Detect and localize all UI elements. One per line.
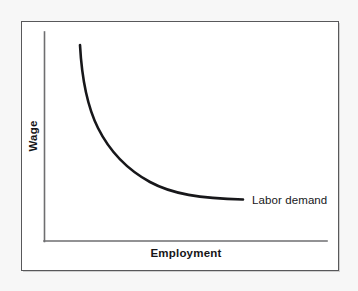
figure-root: Wage Employment Labor demand bbox=[0, 0, 358, 291]
x-axis-title: Employment bbox=[150, 247, 221, 259]
y-axis-title: Wage bbox=[27, 120, 39, 151]
labor-demand-label: Labor demand bbox=[252, 194, 327, 206]
labor-demand-curve bbox=[80, 45, 243, 200]
labor-demand-chart: Wage Employment Labor demand bbox=[0, 0, 358, 291]
